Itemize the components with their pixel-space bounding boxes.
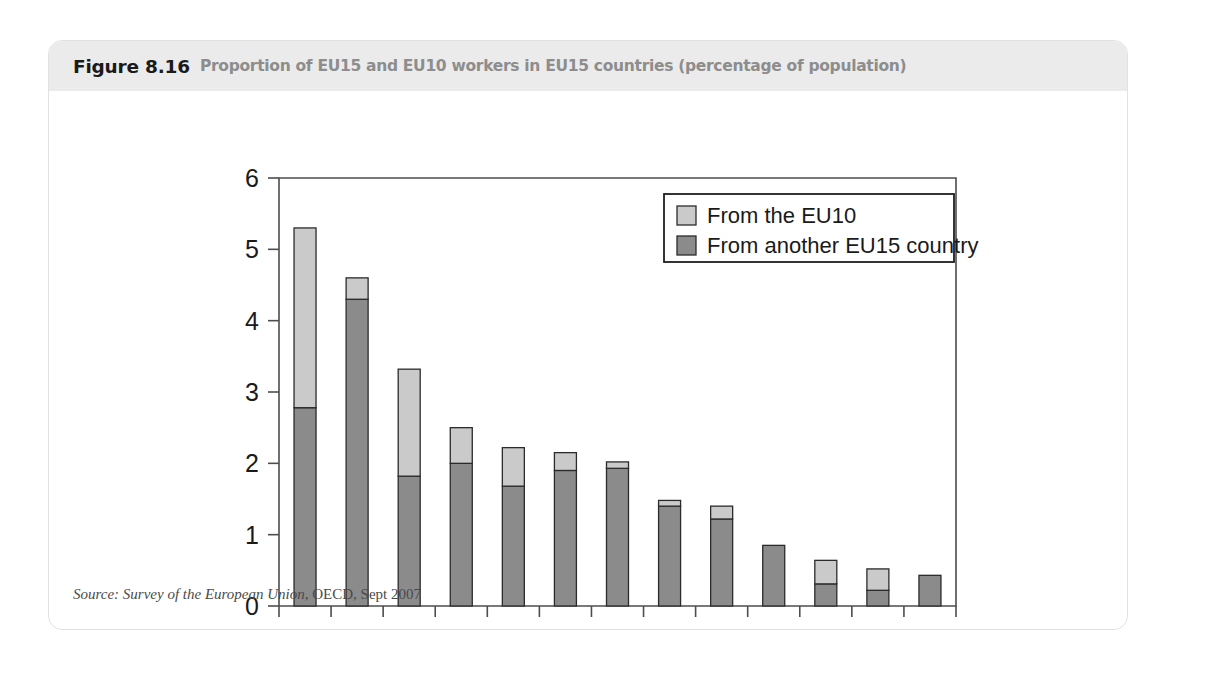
figure-number: Figure 8.16	[73, 56, 190, 77]
x-tick-label-bel: BEL	[335, 627, 379, 631]
x-tick-label-prt: PRT	[907, 627, 953, 631]
chart-legend: From the EU10From another EU15 country	[664, 194, 978, 262]
stacked-bar-chart: 0123456 IRLBELAUTDEUGBRSWEFRANLDESPDNKFI…	[49, 91, 1129, 631]
bar-segment-eu10-aut	[398, 369, 420, 476]
bar-segment-eu10-grc	[867, 569, 889, 590]
y-tick-label: 5	[245, 235, 259, 263]
y-axis-ticks: 0123456	[245, 164, 279, 620]
bar-segment-eu15-fin	[815, 584, 837, 606]
bar-segment-eu15-fra	[607, 468, 629, 606]
y-tick-label: 1	[245, 521, 259, 549]
bar-segment-eu15-grc	[867, 590, 889, 606]
bar-segment-eu10-fin	[815, 560, 837, 584]
x-tick-label-deu: DEU	[437, 627, 486, 631]
x-tick-label-irl: IRL	[287, 627, 323, 631]
x-tick-label-grc: GRC	[852, 627, 903, 631]
figure-caption-band: Figure 8.16 Proportion of EU15 and EU10 …	[49, 41, 1127, 91]
bar-segment-eu15-gbr	[502, 486, 524, 606]
bar-segment-eu15-swe	[554, 470, 576, 606]
chart-plot-area: 0123456 IRLBELAUTDEUGBRSWEFRANLDESPDNKFI…	[49, 91, 1129, 631]
legend-swatch-0	[677, 206, 696, 225]
bar-segment-eu15-prt	[919, 575, 941, 606]
y-tick-label: 4	[245, 307, 259, 335]
bar-segment-eu10-esp	[711, 506, 733, 519]
bar-segment-eu10-bel	[346, 278, 368, 299]
bar-segment-eu15-esp	[711, 519, 733, 606]
bar-segment-eu15-nld	[659, 506, 681, 606]
source-title: Survey of the European Union	[123, 586, 305, 602]
bar-segment-eu15-deu	[450, 463, 472, 606]
legend-label-1: From another EU15 country	[707, 233, 978, 258]
bar-segment-eu10-fra	[607, 462, 629, 468]
figure-card: Figure 8.16 Proportion of EU15 and EU10 …	[48, 40, 1128, 630]
x-axis-ticks	[279, 606, 956, 617]
figure-caption-inner: Figure 8.16 Proportion of EU15 and EU10 …	[73, 41, 906, 91]
y-tick-label: 6	[245, 164, 259, 192]
bar-segment-eu10-gbr	[502, 448, 524, 487]
x-tick-label-dnk: DNK	[749, 627, 798, 631]
x-tick-label-gbr: GBR	[488, 627, 538, 631]
x-tick-label-fra: FRA	[595, 627, 642, 631]
bar-segment-eu15-bel	[346, 299, 368, 606]
source-label: Source:	[73, 586, 123, 602]
y-tick-label: 3	[245, 378, 259, 406]
bar-segment-eu15-dnk	[763, 545, 785, 606]
legend-label-0: From the EU10	[707, 203, 856, 228]
x-tick-label-nld: NLD	[647, 627, 693, 631]
x-tick-label-swe: SWE	[539, 627, 591, 631]
y-tick-label: 2	[245, 449, 259, 477]
x-tick-label-aut: AUT	[386, 627, 432, 631]
figure-caption-text: Proportion of EU15 and EU10 workers in E…	[200, 57, 906, 75]
x-axis-labels: IRLBELAUTDEUGBRSWEFRANLDESPDNKFINGRCPRT	[287, 627, 953, 631]
bar-segment-eu10-deu	[450, 428, 472, 464]
source-rest: , OECD, Sept 2007	[305, 586, 421, 602]
x-tick-label-fin: FIN	[807, 627, 844, 631]
source-note: Source: Survey of the European Union, OE…	[73, 586, 421, 603]
bar-segment-eu10-irl	[294, 228, 316, 408]
bars-group	[294, 228, 941, 606]
legend-swatch-1	[677, 236, 696, 255]
bar-segment-eu10-nld	[659, 500, 681, 506]
x-tick-label-esp: ESP	[699, 627, 745, 631]
bar-segment-eu10-swe	[554, 453, 576, 471]
bar-segment-eu15-irl	[294, 408, 316, 606]
